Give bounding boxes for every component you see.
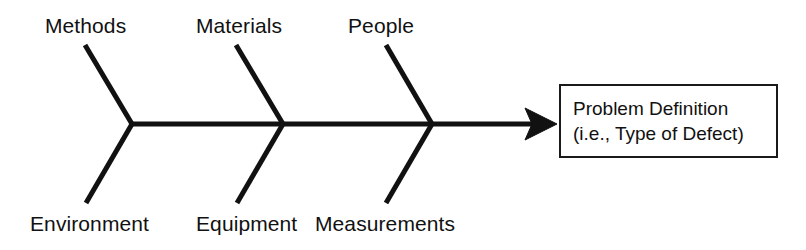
category-label-people: People: [348, 14, 414, 38]
rib-people: [386, 45, 432, 124]
category-label-equipment: Equipment: [196, 212, 297, 236]
category-label-materials: Materials: [196, 14, 282, 38]
problem-definition-box: Problem Definition (i.e., Type of Defect…: [559, 84, 778, 158]
category-label-measurements: Measurements: [315, 212, 455, 236]
rib-measurements: [386, 124, 432, 203]
problem-definition-line-1: Problem Definition: [573, 96, 744, 121]
problem-definition-line-2: (i.e., Type of Defect): [573, 121, 744, 146]
rib-materials: [236, 45, 283, 124]
rib-environment: [86, 124, 132, 203]
rib-methods: [85, 45, 132, 124]
category-label-environment: Environment: [30, 212, 149, 236]
problem-definition-text: Problem Definition (i.e., Type of Defect…: [573, 96, 744, 146]
category-label-methods: Methods: [45, 14, 126, 38]
fishbone-diagram: Methods Materials People Environment Equ…: [0, 0, 806, 250]
rib-equipment: [237, 124, 283, 203]
